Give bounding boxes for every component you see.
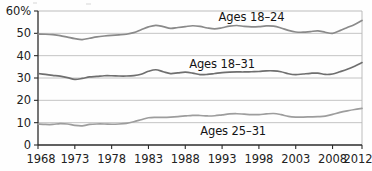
scan-artifact bbox=[86, 3, 91, 5]
x-tick-label: 1973 bbox=[60, 152, 89, 166]
x-tick-label: 1998 bbox=[244, 152, 273, 166]
scan-artifact bbox=[33, 2, 37, 4]
series-line-1 bbox=[38, 20, 362, 39]
y-tick-label: 0 bbox=[24, 138, 31, 152]
x-tick-label: 1983 bbox=[134, 152, 163, 166]
y-tick-label: 10 bbox=[17, 116, 31, 130]
series-label-1: Ages 18–24 bbox=[219, 10, 285, 24]
x-tick-label: 1978 bbox=[97, 152, 126, 166]
series-label-3: Ages 25–31 bbox=[200, 124, 266, 138]
x-tick-label: 2003 bbox=[281, 152, 310, 166]
data-series-group bbox=[38, 20, 362, 125]
y-tick-label: 20 bbox=[17, 93, 31, 107]
x-tick-label: 1968 bbox=[27, 152, 56, 166]
y-tick-label: 60% bbox=[6, 4, 31, 18]
series-label-2: Ages 18–31 bbox=[189, 57, 255, 71]
y-tick-label: 40 bbox=[17, 49, 31, 63]
x-tick-label: 1993 bbox=[208, 152, 237, 166]
x-tick-label: 2012 bbox=[344, 152, 372, 166]
y-tick-label: 50 bbox=[17, 26, 31, 40]
x-tick-label: 1988 bbox=[171, 152, 200, 166]
y-tick-label: 30 bbox=[17, 71, 31, 85]
